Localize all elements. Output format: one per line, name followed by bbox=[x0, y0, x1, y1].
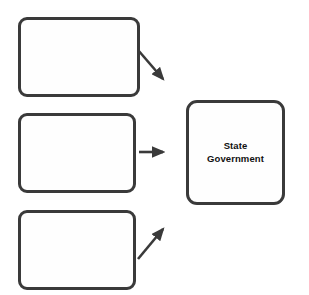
source-box-top[interactable] bbox=[18, 17, 140, 97]
arrow-top-to-target bbox=[138, 50, 163, 79]
source-box-bottom[interactable] bbox=[18, 210, 136, 290]
diagram-canvas: State Government bbox=[0, 0, 309, 295]
source-box-middle[interactable] bbox=[18, 113, 136, 193]
arrow-bottom-to-target bbox=[138, 229, 163, 259]
state-government-label: State Government bbox=[203, 140, 268, 164]
state-government-box[interactable]: State Government bbox=[186, 100, 285, 205]
